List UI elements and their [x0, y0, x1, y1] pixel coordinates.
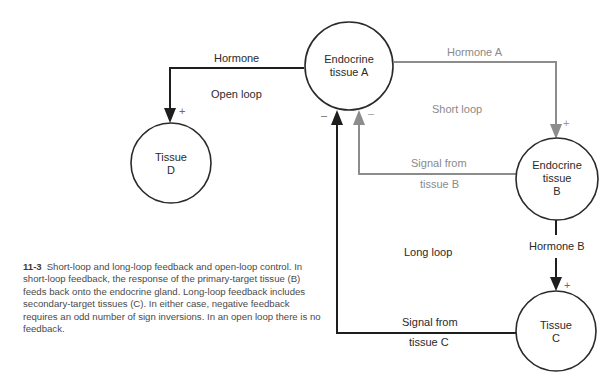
endocrine-tissue-b-line1: Endocrine [517, 159, 597, 172]
endocrine-tissue-b-label: Endocrine tissue B [517, 159, 597, 198]
hormone-b-path [550, 219, 562, 291]
endocrine-tissue-b-line3: B [517, 185, 597, 198]
short-loop-label: Short loop [432, 103, 482, 116]
signal-from-tissue-c-label-line1: Signal from [402, 316, 458, 329]
open-loop-label: Open loop [211, 88, 262, 101]
hormone-b-label: Hormone B [529, 240, 585, 253]
tissue-c-label: Tissue C [516, 319, 596, 345]
signal-from-tissue-b-label-line1: Signal from [411, 157, 467, 170]
hormone-a-path [394, 62, 562, 139]
endocrine-tissue-a-line2: tissue A [309, 66, 389, 79]
signal-from-tissue-b-label-line2: tissue B [420, 178, 459, 191]
arrowhead-icon [331, 110, 343, 125]
plus-sign-tissue-d: + [179, 106, 185, 117]
tissue-c-line1: Tissue [516, 319, 596, 332]
arrowhead-icon [550, 124, 562, 139]
arrowhead-icon [164, 108, 176, 123]
plus-sign-tissue-c: + [564, 280, 570, 291]
figure-caption: 11-3Short-loop and long-loop feedback an… [23, 261, 323, 335]
long-loop-label: Long loop [404, 246, 452, 259]
signal-from-tissue-c-label-line2: tissue C [409, 336, 449, 349]
hormone-a-label: Hormone A [447, 46, 502, 59]
plus-sign-endocrine-b: + [563, 118, 569, 129]
minus-sign-short-loop: – [368, 108, 374, 119]
tissue-d-line2: D [131, 164, 211, 177]
tissue-d-line1: Tissue [131, 151, 211, 164]
endocrine-tissue-a-label: Endocrine tissue A [309, 53, 389, 79]
endocrine-tissue-a-line1: Endocrine [309, 53, 389, 66]
tissue-d-label: Tissue D [131, 151, 211, 177]
minus-sign-long-loop: – [321, 110, 327, 121]
hormone-label: Hormone [214, 52, 259, 65]
figure-number: 11-3 [23, 261, 42, 272]
caption-text: Short-loop and long-loop feedback and op… [23, 261, 321, 334]
tissue-c-line2: C [516, 332, 596, 345]
endocrine-tissue-b-line2: tissue [517, 172, 597, 185]
arrowhead-icon [550, 277, 562, 291]
arrowhead-icon [353, 110, 365, 125]
